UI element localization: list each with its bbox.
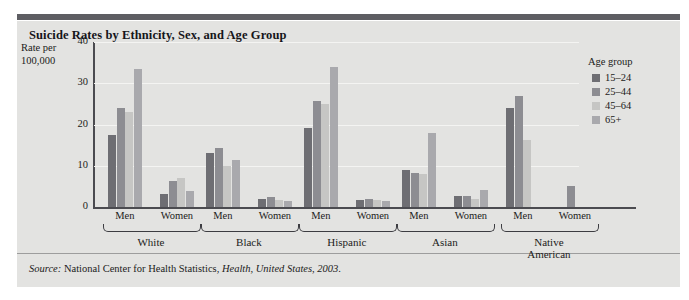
bar	[160, 194, 168, 207]
source-label: Source:	[29, 263, 61, 274]
bar	[321, 104, 329, 207]
bar	[313, 101, 321, 207]
bar	[267, 197, 275, 207]
y-axis-label-line1: Rate per	[21, 41, 56, 54]
bar	[177, 178, 185, 207]
x-axis-sex-label: Men	[193, 210, 253, 221]
bar	[206, 153, 214, 207]
legend-title: Age group	[588, 56, 633, 67]
y-tick-label: 20	[62, 118, 88, 129]
bar	[258, 199, 266, 207]
bar	[419, 174, 427, 207]
source-agency: National Center for Health Statistics,	[64, 263, 219, 274]
bar	[134, 69, 142, 207]
ethnicity-brace	[501, 224, 599, 232]
top-rule-divider	[17, 14, 680, 20]
bar	[515, 96, 523, 207]
bar	[411, 173, 419, 207]
bar	[186, 191, 194, 208]
bar	[330, 67, 338, 207]
ethnicity-label-line1: Native	[499, 236, 599, 248]
x-axis-ethnicity-label: White	[101, 236, 201, 248]
bar	[215, 148, 223, 207]
ethnicity-label-line2: American	[499, 248, 599, 260]
legend-item: 65+	[592, 114, 621, 125]
x-axis-ethnicity-label: Black	[199, 236, 299, 248]
bar	[284, 201, 292, 207]
bar	[356, 200, 364, 207]
bar	[428, 133, 436, 207]
bar	[567, 186, 575, 207]
bar	[471, 199, 479, 207]
x-axis-sex-label: Men	[95, 210, 155, 221]
figure-container: Suicide Rates by Ethnicity, Sex, and Age…	[0, 0, 689, 300]
bar	[108, 135, 116, 207]
source-line: Source: National Center for Health Stati…	[29, 263, 341, 274]
bar	[223, 166, 231, 207]
ethnicity-brace	[201, 224, 299, 232]
y-axis-label-line2: 100,000	[21, 54, 56, 67]
bar	[523, 140, 531, 207]
source-publication: Health, United States, 2003	[222, 263, 338, 274]
y-axis-label: Rate per 100,000	[21, 41, 56, 67]
bar	[454, 196, 462, 207]
legend-item-label: 25–44	[605, 86, 631, 97]
legend-item-label: 65+	[605, 114, 621, 125]
bar	[304, 128, 312, 207]
x-axis-line	[93, 207, 636, 209]
bar	[169, 181, 177, 207]
y-tick-label: 40	[62, 35, 88, 46]
bar	[480, 190, 488, 207]
bar	[506, 108, 514, 207]
legend-item: 15–24	[592, 72, 631, 83]
bar	[117, 108, 125, 207]
legend-item-label: 45–64	[605, 100, 631, 111]
bar	[402, 170, 410, 207]
legend-item-label: 15–24	[605, 72, 631, 83]
x-axis-sex-label: Women	[441, 210, 501, 221]
legend-item: 45–64	[592, 100, 631, 111]
x-axis-sex-label: Men	[389, 210, 449, 221]
legend-swatch-icon	[592, 116, 600, 124]
bar	[463, 196, 471, 207]
ethnicity-brace	[299, 224, 397, 232]
legend-item: 25–44	[592, 86, 631, 97]
y-tick-label: 10	[62, 159, 88, 170]
legend-swatch-icon	[592, 88, 600, 96]
x-axis-ethnicity-label: Asian	[395, 236, 495, 248]
ethnicity-brace	[397, 224, 495, 232]
bar	[275, 200, 283, 207]
x-axis-sex-label: Men	[493, 210, 553, 221]
bar	[125, 112, 133, 207]
x-axis-ethnicity-label: NativeAmerican	[499, 236, 599, 260]
bar	[373, 200, 381, 207]
x-axis-sex-label: Men	[291, 210, 351, 221]
x-axis-sex-label: Women	[545, 210, 605, 221]
y-tick-label: 0	[62, 200, 88, 211]
y-tick-label: 30	[62, 76, 88, 87]
source-period: .	[338, 263, 341, 274]
legend-swatch-icon	[592, 74, 600, 82]
x-axis-ethnicity-label: Hispanic	[297, 236, 397, 248]
bar	[365, 199, 373, 207]
gridline	[94, 42, 579, 43]
bar	[382, 201, 390, 207]
bar	[232, 160, 240, 207]
ethnicity-brace	[103, 224, 201, 232]
legend-swatch-icon	[592, 102, 600, 110]
